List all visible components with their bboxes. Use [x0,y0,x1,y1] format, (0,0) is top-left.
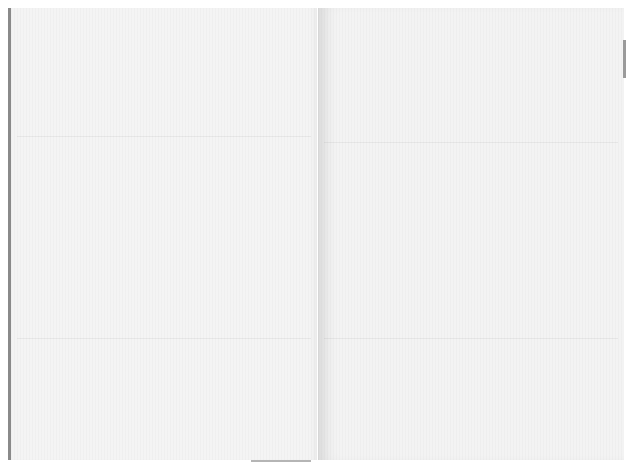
fold-line [324,142,618,143]
page-bottom-edge [251,460,311,462]
fold-line [17,136,311,137]
fold-line [324,338,618,339]
book-spread [0,0,632,469]
right-page [318,8,624,460]
fold-line [17,338,311,339]
left-page [8,8,317,460]
